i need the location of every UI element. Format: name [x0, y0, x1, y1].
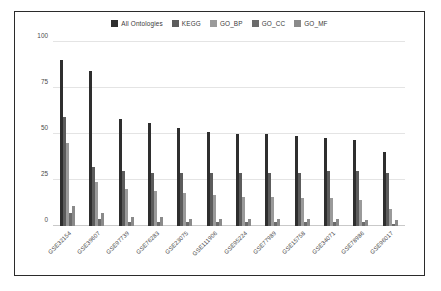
bar — [160, 217, 163, 226]
y-axis-tick-label: 50 — [41, 124, 48, 131]
bar-group — [53, 42, 82, 226]
legend-label: GO_CC — [262, 20, 285, 27]
bar-group — [112, 42, 141, 226]
bar — [131, 217, 134, 226]
x-axis-tick-label: GSE32154 — [47, 230, 72, 255]
bar — [101, 213, 104, 226]
bar — [307, 219, 310, 226]
bar — [277, 219, 280, 226]
bar-group — [170, 42, 199, 226]
bar — [154, 191, 157, 226]
legend-swatch-icon — [294, 20, 301, 27]
bar-group — [376, 42, 405, 226]
legend-item-go-bp[interactable]: GO_BP — [210, 20, 243, 27]
legend-swatch-icon — [252, 20, 259, 27]
bar — [213, 195, 216, 226]
bar-group — [346, 42, 375, 226]
bar — [219, 219, 222, 226]
legend-item-go-cc[interactable]: GO_CC — [252, 20, 285, 27]
bar-groups — [53, 42, 405, 226]
bar-group — [229, 42, 258, 226]
legend-swatch-icon — [111, 20, 118, 27]
legend-label: KEGG — [182, 20, 201, 27]
legend-swatch-icon — [172, 20, 179, 27]
x-axis-label-cell: GSE96017 — [376, 228, 405, 276]
chart-legend: All OntologiesKEGGGO_BPGO_CCGO_MF — [15, 20, 424, 27]
y-axis-tick-label: 100 — [37, 32, 48, 39]
bar-group — [258, 42, 287, 226]
bar — [395, 220, 398, 226]
bar — [183, 193, 186, 226]
y-axis-tick-label: 0 — [44, 216, 48, 223]
legend-label: All Ontologies — [121, 20, 163, 27]
x-axis-labels: GSE32154GSE39607GSE97739GSE76283GSE23075… — [53, 228, 405, 276]
legend-label: GO_MF — [304, 20, 327, 27]
bar-group — [200, 42, 229, 226]
y-axis-tick-label: 25 — [41, 170, 48, 177]
legend-swatch-icon — [210, 20, 217, 27]
plot-area: 0255075100 — [53, 42, 405, 226]
bar — [125, 189, 128, 226]
legend-item-go-mf[interactable]: GO_MF — [294, 20, 327, 27]
bar — [248, 219, 251, 226]
legend-label: GO_BP — [220, 20, 243, 27]
bar — [189, 219, 192, 226]
y-axis-tick-label: 75 — [41, 78, 48, 85]
bar — [336, 219, 339, 226]
bar-group — [317, 42, 346, 226]
chart-figure: All OntologiesKEGGGO_BPGO_CCGO_MF 025507… — [14, 11, 425, 276]
bar-group — [288, 42, 317, 226]
bar-group — [141, 42, 170, 226]
legend-item-kegg[interactable]: KEGG — [172, 20, 201, 27]
bar-group — [82, 42, 111, 226]
legend-item-all-ontologies[interactable]: All Ontologies — [111, 20, 163, 27]
bar — [365, 220, 368, 226]
bar — [72, 206, 75, 226]
